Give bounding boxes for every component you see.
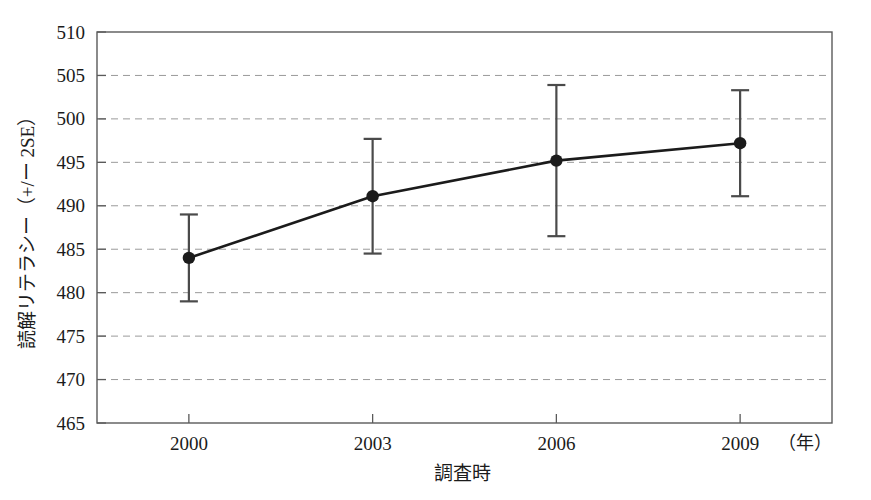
data-markers-group — [183, 137, 747, 264]
x-axis-tick-label: 2000 — [170, 433, 208, 454]
y-axis-tick-label: 470 — [57, 369, 86, 390]
data-point-marker — [183, 252, 195, 264]
y-axis-tick-label: 490 — [57, 195, 86, 216]
data-point-marker — [550, 154, 562, 166]
plot-area-border — [97, 32, 832, 423]
y-axis-tick-label: 475 — [57, 326, 86, 347]
x-axis-ticks-group — [189, 414, 740, 423]
x-axis-tick-labels-group: 2000200320062009 — [170, 433, 759, 454]
y-axis-tick-label: 465 — [57, 413, 86, 434]
x-axis-tick-label: 2006 — [537, 433, 575, 454]
data-point-marker — [366, 190, 378, 202]
x-axis-tick-label: 2003 — [354, 433, 392, 454]
y-axis-tick-label: 510 — [57, 22, 86, 43]
x-axis-tick-label: 2009 — [721, 433, 759, 454]
y-axis-tick-label: 505 — [57, 65, 86, 86]
x-axis-unit-label: （年） — [778, 433, 832, 453]
y-axis-tick-label: 480 — [57, 282, 86, 303]
y-axis-tick-label: 500 — [57, 108, 86, 129]
error-bars-group — [180, 85, 749, 301]
chart-canvas: 465470475480485490495500505510 200020032… — [0, 0, 871, 500]
y-axis-ticks-group — [97, 32, 106, 423]
y-axis-tick-label: 485 — [57, 239, 86, 260]
x-axis-title: 調査時 — [434, 463, 491, 484]
y-axis-tick-label: 495 — [57, 152, 86, 173]
reading-literacy-line-chart: 465470475480485490495500505510 200020032… — [0, 0, 871, 500]
data-point-marker — [734, 137, 746, 149]
y-axis-tick-labels-group: 465470475480485490495500505510 — [57, 22, 86, 434]
data-line — [189, 143, 740, 258]
gridlines-group — [99, 75, 830, 379]
y-axis-title: 読解リテラシー（+/ー 2SE） — [17, 107, 38, 349]
